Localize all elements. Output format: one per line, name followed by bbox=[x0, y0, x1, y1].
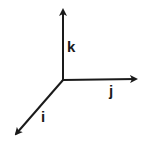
k-axis-label: k bbox=[67, 38, 76, 55]
j-axis: j bbox=[63, 79, 136, 99]
k-axis: k bbox=[63, 10, 76, 80]
j-axis-line bbox=[63, 79, 136, 80]
coordinate-axes-diagram: k j i bbox=[0, 0, 150, 146]
j-axis-label: j bbox=[108, 82, 113, 99]
i-axis: i bbox=[16, 80, 63, 134]
i-axis-label: i bbox=[41, 108, 45, 125]
i-axis-line bbox=[16, 80, 63, 134]
